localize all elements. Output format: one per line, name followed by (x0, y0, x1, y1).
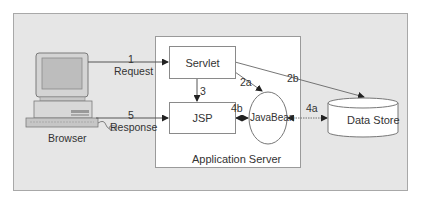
edge-5-label: Response (110, 122, 157, 133)
edge-4a-step: 4a (306, 103, 318, 114)
edge-2a-step: 2a (240, 77, 252, 88)
javabean-label: JavaBean (250, 113, 294, 123)
edge-3-step: 3 (200, 86, 206, 97)
data-store-label: Data Store (347, 115, 400, 126)
jsp-node: JSP (169, 102, 236, 134)
browser-label: Browser (48, 133, 87, 144)
desktop-computer-icon (26, 53, 117, 131)
edge-4b-step: 4b (231, 103, 243, 114)
edge-2b-step: 2b (287, 73, 299, 84)
servlet-node: Servlet (169, 46, 236, 79)
app-server-label: Application Server (192, 154, 281, 165)
edge-1-step: 1 (128, 54, 134, 65)
edge-5-step: 5 (128, 110, 134, 121)
edge-1-label: Request (114, 66, 153, 77)
